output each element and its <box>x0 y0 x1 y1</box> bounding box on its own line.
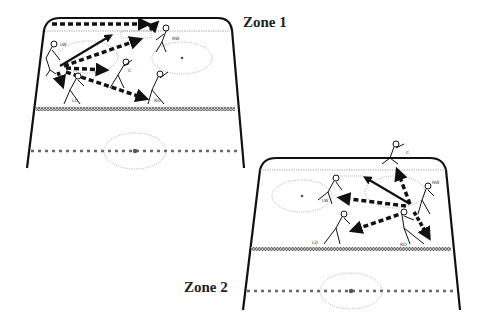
player-c[interactable]: C <box>382 141 409 164</box>
hockey-zone-diagrams: LW C RW LD RD <box>0 0 483 330</box>
player-lw[interactable]: LW <box>46 41 67 76</box>
zone1-blue-line <box>36 107 235 111</box>
svg-text:C: C <box>128 68 131 73</box>
player-rw[interactable]: RW <box>418 180 440 214</box>
pass-arrow <box>150 24 156 30</box>
zone1-label: Zone 1 <box>243 14 287 31</box>
svg-text:RD: RD <box>400 242 407 247</box>
svg-text:LW: LW <box>60 42 67 47</box>
svg-text:LW: LW <box>322 198 329 203</box>
zone2-center-dot <box>349 289 353 293</box>
pass-arrow <box>66 68 104 70</box>
zone2-blue-line <box>251 247 451 251</box>
zone1-net <box>121 31 151 38</box>
pass-arrow <box>342 198 406 206</box>
svg-text:RD: RD <box>154 98 161 103</box>
player-rd[interactable]: RD <box>400 209 424 247</box>
zone2-label: Zone 2 <box>184 279 228 296</box>
zone1-center-dot <box>133 149 137 153</box>
player-c[interactable]: C <box>110 59 132 88</box>
svg-text:RW: RW <box>172 36 180 41</box>
player-ld[interactable]: LD <box>64 73 84 104</box>
svg-text:LD: LD <box>72 98 79 103</box>
svg-text:LD: LD <box>312 240 319 245</box>
svg-text:RW: RW <box>432 180 440 185</box>
svg-text:C: C <box>406 150 409 155</box>
zone2-faceoff-dot <box>301 195 304 198</box>
zone1-faceoff-dot <box>181 57 184 60</box>
player-rw[interactable]: RW <box>156 25 180 52</box>
player-ld[interactable]: LD <box>312 211 350 245</box>
pass-arrow <box>58 72 62 84</box>
zone1-passes <box>52 24 156 98</box>
player-lw[interactable]: LW <box>318 175 342 204</box>
pass-arrow <box>354 212 406 230</box>
player-rd[interactable]: RD <box>148 71 168 104</box>
pass-arrow <box>414 212 428 236</box>
